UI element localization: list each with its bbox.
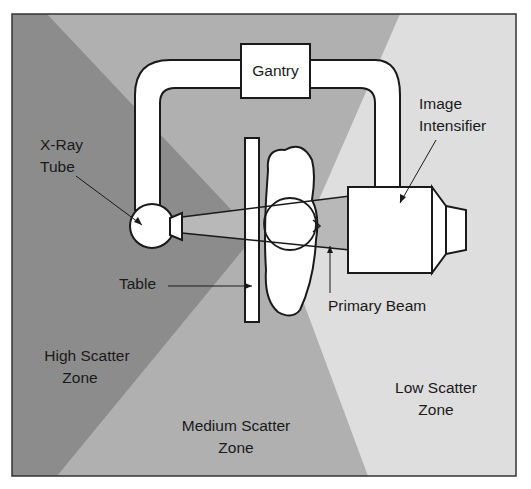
low-zone-label-line1: Low Scatter — [395, 379, 477, 396]
high-zone-label-line2: Zone — [62, 369, 97, 386]
xray-tube-label-line2: Tube — [40, 158, 75, 175]
primary-beam-label: Primary Beam — [328, 297, 426, 314]
scatter-diagram: Gantry X-Ray Tube Image Intensifier Tabl… — [0, 0, 531, 489]
xray-tube-label-line1: X-Ray — [40, 136, 83, 153]
xray-tube-body — [130, 204, 174, 248]
image-intensifier-box — [348, 187, 432, 273]
table — [245, 138, 259, 322]
xray-tube-port — [170, 213, 182, 240]
gantry-label: Gantry — [252, 62, 299, 79]
low-zone-label-line2: Zone — [418, 401, 453, 418]
high-zone-label-line1: High Scatter — [44, 347, 129, 364]
intensifier-label-line1: Image — [419, 95, 462, 112]
image-intensifier-tip — [446, 206, 466, 254]
table-label: Table — [119, 275, 156, 292]
medium-zone-label-line1: Medium Scatter — [182, 417, 291, 434]
medium-zone-label-line2: Zone — [218, 439, 253, 456]
intensifier-label-line2: Intensifier — [419, 117, 486, 134]
